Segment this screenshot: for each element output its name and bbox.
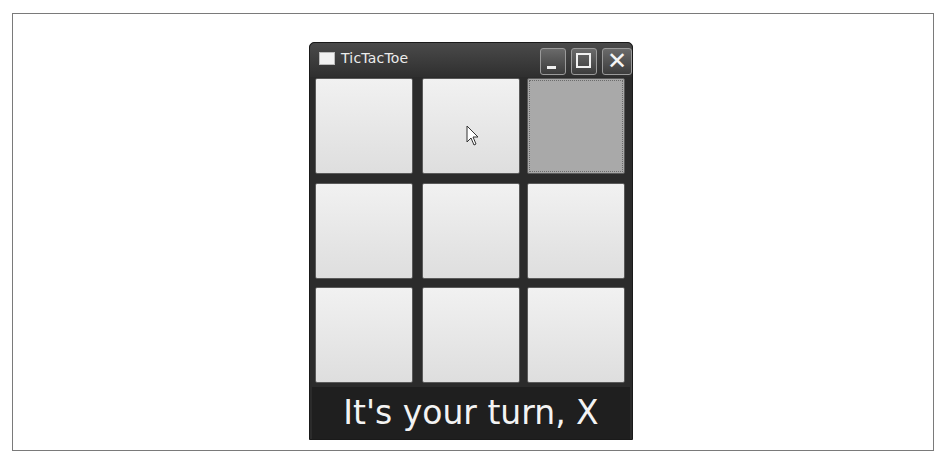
window-title: TicTacToe: [341, 50, 408, 66]
board-cell-0-2[interactable]: [527, 78, 625, 174]
title-bar[interactable]: TicTacToe ✕: [310, 43, 632, 77]
minimize-icon: [547, 66, 556, 69]
maximize-button[interactable]: [571, 48, 597, 75]
close-icon: ✕: [603, 49, 631, 74]
turn-status: It's your turn, X: [312, 387, 630, 439]
board-cell-2-2[interactable]: [527, 287, 625, 383]
board-cell-2-0[interactable]: [315, 287, 413, 383]
app-window-icon: [319, 52, 335, 65]
board-cell-0-0[interactable]: [315, 78, 413, 174]
board-cell-1-1[interactable]: [422, 183, 520, 279]
mouse-pointer-icon: [466, 125, 480, 147]
tictactoe-window: TicTacToe ✕ It's your turn, X: [309, 42, 633, 440]
maximize-icon: [576, 53, 591, 68]
close-button[interactable]: ✕: [602, 48, 632, 75]
board-cell-2-1[interactable]: [422, 287, 520, 383]
board-cell-1-0[interactable]: [315, 183, 413, 279]
board-cell-1-2[interactable]: [527, 183, 625, 279]
minimize-button[interactable]: [540, 48, 566, 75]
